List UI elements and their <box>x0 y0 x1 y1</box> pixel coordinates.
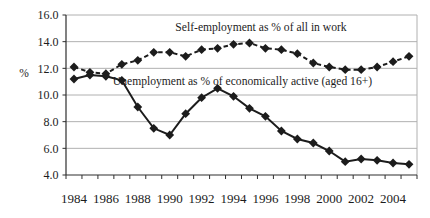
y-tick-label: 14.0 <box>38 35 59 49</box>
y-tick-label: 4.0 <box>44 168 59 182</box>
y-tick-label: 8.0 <box>44 115 59 129</box>
series-label-self-employment: Self-employment as % of all in work <box>175 21 346 34</box>
plot-geometry <box>63 15 418 179</box>
y-tick-label: 6.0 <box>44 142 59 156</box>
x-tick-label: 1988 <box>125 191 151 206</box>
line-chart: % 16.0 14.0 12.0 10.0 8.0 6.0 4.0 1984 1… <box>0 0 430 218</box>
y-tick-label: 10.0 <box>38 88 59 102</box>
x-tick-label: 1990 <box>157 191 183 206</box>
line-chart-canvas: % 16.0 14.0 12.0 10.0 8.0 6.0 4.0 1984 1… <box>0 0 430 218</box>
x-tick-label: 2002 <box>348 191 374 206</box>
x-tick-label: 1984 <box>61 191 88 206</box>
y-axis-title: % <box>19 67 29 79</box>
y-tick-label: 16.0 <box>38 8 59 22</box>
x-tick-label: 2004 <box>380 191 407 206</box>
x-tick-label: 1998 <box>284 191 310 206</box>
series-label-unemployment: Unemployment as % of economically active… <box>113 75 372 88</box>
y-tick-label: 12.0 <box>38 62 59 76</box>
x-tick-label: 1986 <box>93 191 120 206</box>
x-tick-label: 1996 <box>252 191 279 206</box>
x-tick-label: 1992 <box>189 191 215 206</box>
x-tick-label: 1994 <box>221 191 248 206</box>
x-tick-label: 2000 <box>316 191 342 206</box>
